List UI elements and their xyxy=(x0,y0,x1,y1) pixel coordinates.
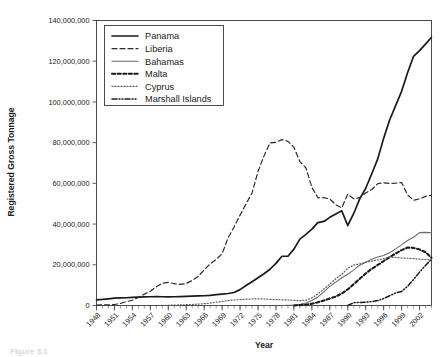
x-tick-label: 1963 xyxy=(174,311,192,329)
x-axis-ticks xyxy=(97,306,432,311)
y-tick-label: 140,000,000 xyxy=(48,16,89,25)
x-tick-label: 1960 xyxy=(156,311,174,329)
x-tick-label: 1969 xyxy=(210,311,228,329)
y-tick-label: 40,000,000 xyxy=(53,220,90,229)
x-tick-label: 1966 xyxy=(192,311,210,329)
x-tick-label: 1990 xyxy=(336,311,354,329)
y-axis-title: Registered Gross Tonnage xyxy=(6,107,16,216)
y-tick-label: 120,000,000 xyxy=(48,57,89,66)
y-tick-label: 60,000,000 xyxy=(53,179,90,188)
legend-label-cyprus: Cyprus xyxy=(145,82,175,92)
x-tick-label: 1951 xyxy=(102,311,120,329)
x-tick-label: 1972 xyxy=(228,311,246,329)
line-chart: 020,000,00040,000,00060,000,00080,000,00… xyxy=(0,0,445,357)
x-tick-label: 1987 xyxy=(318,311,336,329)
x-tick-label: 1957 xyxy=(138,311,156,329)
x-tick-label: 1984 xyxy=(300,311,318,329)
chart-legend: PanamaLiberiaBahamasMaltaCyprusMarshall … xyxy=(105,26,224,106)
y-axis-tick-labels: 020,000,00040,000,00060,000,00080,000,00… xyxy=(48,16,89,310)
x-tick-label: 1993 xyxy=(354,311,372,329)
legend-label-bahamas: Bahamas xyxy=(145,57,184,67)
x-tick-label: 1948 xyxy=(84,311,102,329)
figure-container: 020,000,00040,000,00060,000,00080,000,00… xyxy=(0,0,445,357)
x-tick-label: 1981 xyxy=(282,311,300,329)
figure-caption: Figure 3.1 xyxy=(10,347,48,356)
legend-label-panama: Panama xyxy=(145,31,180,41)
y-tick-label: 80,000,000 xyxy=(53,138,90,147)
x-tick-label: 1978 xyxy=(264,311,282,329)
x-axis-tick-labels: 1948195119541957196019631966196919721975… xyxy=(84,311,425,329)
x-axis-title: Year xyxy=(255,340,274,350)
x-tick-label: 1996 xyxy=(372,311,390,329)
y-tick-label: 0 xyxy=(85,301,89,310)
x-tick-label: 1999 xyxy=(390,311,408,329)
legend-label-malta: Malta xyxy=(145,69,168,79)
x-tick-label: 1975 xyxy=(246,311,264,329)
y-axis-ticks xyxy=(93,21,97,306)
y-tick-label: 100,000,000 xyxy=(48,98,89,107)
legend-label-liberia: Liberia xyxy=(145,44,173,54)
x-tick-label: 1954 xyxy=(120,311,138,329)
legend-label-marshall-islands: Marshall Islands xyxy=(145,94,212,104)
x-tick-label: 2002 xyxy=(407,311,425,329)
y-tick-label: 20,000,000 xyxy=(53,260,90,269)
